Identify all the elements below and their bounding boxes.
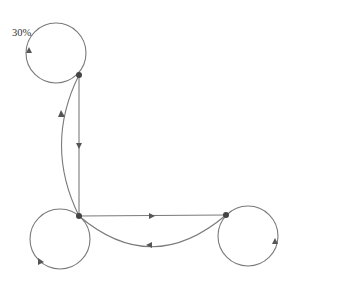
node-bottom-left xyxy=(76,213,82,219)
arrow-icon-edge-down xyxy=(76,143,82,149)
node-right xyxy=(223,212,229,218)
arrow-icon-edge-up xyxy=(58,110,65,117)
arrow-icon-edge-right xyxy=(149,213,155,219)
state-diagram: 30% xyxy=(0,0,340,284)
top-loop-label: 30% xyxy=(12,27,32,38)
edge-right-to-bottom-left xyxy=(79,215,226,247)
node-top xyxy=(76,72,82,78)
edge-bottom-left-to-top xyxy=(62,75,80,216)
